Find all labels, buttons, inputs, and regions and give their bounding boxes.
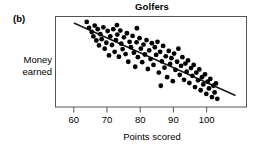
- data-point: [104, 40, 109, 45]
- data-point: [102, 46, 107, 51]
- data-point: [190, 73, 195, 78]
- data-point: [134, 40, 139, 45]
- data-point: [158, 49, 163, 54]
- data-point: [137, 36, 142, 41]
- data-point: [170, 79, 175, 84]
- data-point: [191, 63, 196, 68]
- data-point: [105, 29, 110, 34]
- data-point: [141, 42, 146, 47]
- data-point: [162, 65, 167, 70]
- data-point: [98, 32, 103, 37]
- data-point: [133, 64, 138, 69]
- data-point: [197, 67, 202, 72]
- data-point: [182, 77, 187, 82]
- x-axis-ticks: [74, 107, 207, 113]
- data-point: [145, 67, 150, 72]
- data-point: [138, 46, 143, 51]
- x-tick-label-100: 100: [192, 114, 222, 126]
- data-point: [152, 45, 157, 50]
- data-point: [97, 43, 102, 48]
- data-point: [126, 59, 131, 64]
- x-tick-label-60: 60: [59, 114, 89, 126]
- data-point: [210, 95, 215, 100]
- data-point: [134, 26, 139, 31]
- data-point: [131, 50, 136, 55]
- data-point: [149, 41, 154, 46]
- data-point: [84, 20, 89, 25]
- data-point: [214, 81, 219, 86]
- data-point: [179, 63, 184, 68]
- data-point: [163, 54, 168, 59]
- data-point: [129, 45, 134, 50]
- data-point: [186, 58, 191, 63]
- data-point: [147, 48, 152, 53]
- data-point: [161, 44, 166, 49]
- data-point: [94, 38, 99, 43]
- scatter-plot: [0, 0, 263, 157]
- data-point: [204, 91, 209, 96]
- data-point: [125, 31, 130, 36]
- data-point: [91, 34, 96, 39]
- data-point: [175, 59, 180, 64]
- data-point: [208, 77, 213, 82]
- data-point: [107, 53, 112, 58]
- data-point: [168, 62, 173, 67]
- data-point: [127, 39, 132, 44]
- data-point: [135, 55, 140, 60]
- data-point: [184, 69, 189, 74]
- figure-container: (b) Golfers Money earned Points scored 6…: [0, 0, 263, 157]
- data-point: [140, 60, 145, 65]
- data-point: [166, 48, 171, 53]
- data-point: [169, 56, 174, 61]
- data-point: [120, 47, 125, 52]
- data-point: [114, 38, 119, 43]
- data-point: [148, 57, 153, 62]
- data-point: [158, 83, 163, 88]
- data-point: [196, 78, 201, 83]
- data-point: [173, 67, 178, 72]
- data-point: [155, 39, 160, 44]
- x-tick-label-70: 70: [92, 114, 122, 126]
- data-point: [130, 34, 135, 39]
- data-point: [207, 86, 212, 91]
- data-point: [117, 54, 122, 59]
- data-point: [110, 43, 115, 48]
- data-point: [215, 96, 220, 101]
- data-point: [201, 82, 206, 87]
- x-tick-label-80: 80: [125, 114, 155, 126]
- data-point: [212, 90, 217, 95]
- data-point: [193, 85, 198, 90]
- data-point: [187, 81, 192, 86]
- data-point: [108, 34, 113, 39]
- data-point: [122, 35, 127, 40]
- data-point: [203, 72, 208, 77]
- data-point: [115, 32, 120, 37]
- plot-frame: [56, 17, 247, 108]
- data-point: [156, 70, 161, 75]
- data-point: [101, 25, 106, 30]
- data-point: [112, 49, 117, 54]
- data-point: [176, 46, 181, 51]
- data-point: [119, 41, 124, 46]
- data-point: [198, 88, 203, 93]
- data-point: [118, 28, 123, 33]
- data-point: [115, 23, 120, 28]
- data-point: [99, 37, 104, 42]
- data-point: [177, 72, 182, 77]
- data-point: [142, 52, 147, 57]
- data-point: [95, 27, 100, 32]
- data-point: [111, 27, 116, 32]
- data-point: [87, 25, 92, 30]
- data-point: [165, 75, 170, 80]
- data-point: [89, 29, 94, 34]
- x-tick-label-90: 90: [158, 114, 188, 126]
- data-point: [123, 52, 128, 57]
- data-point: [159, 59, 164, 64]
- data-point: [180, 55, 185, 60]
- data-point: [144, 38, 149, 43]
- data-point: [154, 53, 159, 58]
- data-point: [151, 63, 156, 68]
- data-point: [172, 51, 177, 56]
